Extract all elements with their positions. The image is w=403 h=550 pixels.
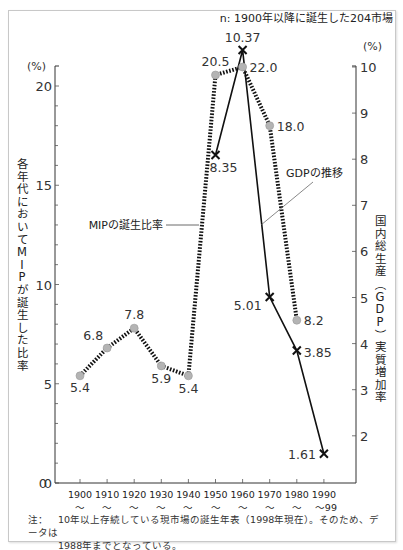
svg-text:〜: 〜 <box>102 502 112 513</box>
footnote-line-1: 10年以上存続している現市場の誕生年表（1998年現在）。そのため、データは <box>28 514 379 538</box>
svg-text:8: 8 <box>360 152 368 167</box>
svg-text:8.35: 8.35 <box>210 160 238 175</box>
svg-text:7: 7 <box>360 198 368 213</box>
left-axis-unit: (%) <box>27 60 46 73</box>
svg-text:1910: 1910 <box>95 489 119 500</box>
svg-text:10: 10 <box>35 278 52 293</box>
svg-text:〜: 〜 <box>156 502 166 513</box>
svg-text:8.2: 8.2 <box>304 313 324 328</box>
svg-text:22.0: 22.0 <box>250 60 278 75</box>
right-axis-title: 国内総生産（GDP）実質増加率 <box>373 214 387 404</box>
svg-text:4: 4 <box>360 337 368 352</box>
svg-text:1.61: 1.61 <box>288 447 316 462</box>
svg-text:7.8: 7.8 <box>124 307 144 322</box>
svg-text:〜: 〜 <box>238 502 248 513</box>
x-axis: 1900〜1910〜1920〜1930〜1940〜1950〜1960〜1970〜… <box>39 476 356 513</box>
svg-text:3: 3 <box>360 383 368 398</box>
svg-text:10.37: 10.37 <box>225 30 261 45</box>
svg-text:1960: 1960 <box>231 489 255 500</box>
svg-text:〜: 〜 <box>211 502 221 513</box>
svg-text:1990: 1990 <box>312 489 336 500</box>
svg-text:〜: 〜 <box>75 502 85 513</box>
footnote-line-2: 1988年までとなっている。 <box>28 539 388 550</box>
svg-text:1980: 1980 <box>285 489 309 500</box>
svg-text:2: 2 <box>360 429 368 444</box>
footnote: 注：10年以上存続している現市場の誕生年表（1998年現在）。そのため、データは… <box>28 513 388 550</box>
svg-text:5.4: 5.4 <box>70 380 90 395</box>
svg-text:5.4: 5.4 <box>178 381 198 396</box>
svg-text:（: （ <box>373 279 387 290</box>
left-axis-title: 各年代においてMIPが誕生した比率 <box>17 157 29 373</box>
svg-text:5.9: 5.9 <box>151 371 171 386</box>
svg-text:MIPの誕生比率: MIPの誕生比率 <box>89 218 163 232</box>
svg-text:6.8: 6.8 <box>83 328 103 343</box>
svg-text:1920: 1920 <box>122 489 146 500</box>
svg-text:5: 5 <box>360 291 368 306</box>
chart: n: 1900年以降に誕生した204市場 (%) (%) 05101520 23… <box>0 0 403 550</box>
left-axis: 05101520 <box>35 66 59 491</box>
svg-text:〜: 〜 <box>292 502 302 513</box>
svg-text:1970: 1970 <box>258 489 282 500</box>
svg-text:P: P <box>377 315 384 329</box>
svg-text:1950: 1950 <box>203 489 227 500</box>
right-axis: 2345678910 <box>352 60 377 483</box>
svg-text:20: 20 <box>35 79 52 94</box>
svg-text:18.0: 18.0 <box>277 119 305 134</box>
svg-text:20.5: 20.5 <box>202 54 230 69</box>
svg-text:1940: 1940 <box>176 489 200 500</box>
svg-text:〜: 〜 <box>129 502 139 513</box>
legend-callout-mip: MIPの誕生比率 <box>89 218 199 232</box>
svg-text:10: 10 <box>360 60 377 75</box>
svg-text:0: 0 <box>39 476 47 491</box>
right-axis-unit: (%) <box>363 40 382 53</box>
svg-text:産: 産 <box>375 264 386 278</box>
svg-text:）: ） <box>373 329 387 340</box>
svg-text:〜: 〜 <box>265 502 275 513</box>
svg-text:率: 率 <box>375 390 386 404</box>
legend-callout-gdp: GDPの推移 <box>261 166 343 225</box>
svg-text:5.01: 5.01 <box>234 298 262 313</box>
svg-text:6: 6 <box>360 244 368 259</box>
svg-text:1930: 1930 <box>149 489 173 500</box>
svg-text:9: 9 <box>360 106 368 121</box>
gdp-series: 8.3510.375.013.851.61 <box>210 30 332 462</box>
svg-text:3.85: 3.85 <box>304 345 332 360</box>
svg-text:1900: 1900 <box>68 489 92 500</box>
svg-text:15: 15 <box>35 178 52 193</box>
chart-subtitle: n: 1900年以降に誕生した204市場 <box>220 11 393 25</box>
svg-text:率: 率 <box>17 359 28 373</box>
svg-text:〜: 〜 <box>183 502 193 513</box>
footnote-label: 注： <box>28 513 58 526</box>
svg-text:〜99: 〜99 <box>315 502 337 513</box>
svg-text:GDPの推移: GDPの推移 <box>286 166 343 180</box>
svg-text:5: 5 <box>44 377 52 392</box>
